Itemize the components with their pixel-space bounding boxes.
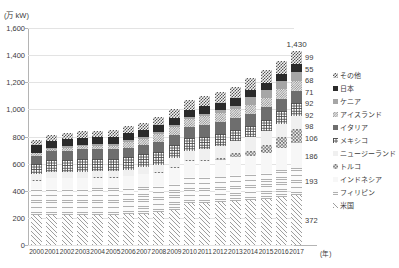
bar-segment (276, 137, 287, 148)
y-axis-tick-label: 800 (0, 132, 25, 141)
bar-segment (138, 214, 149, 245)
bar-2003[interactable] (77, 131, 88, 245)
bar-segment (31, 189, 42, 215)
bar-2002[interactable] (62, 133, 73, 245)
legend-item[interactable]: 日本 (333, 82, 399, 95)
bar-segment (108, 130, 119, 137)
bar-2016[interactable] (276, 61, 287, 246)
gridline (28, 28, 294, 29)
bar-segment (291, 51, 302, 64)
bar-segment (31, 164, 42, 174)
bar-2015[interactable] (261, 70, 272, 245)
x-axis-tick-label: 2011 (198, 248, 212, 255)
segment-value-label: 92 (305, 110, 313, 119)
legend-item-label: 日本 (340, 85, 354, 92)
bar-segment (31, 145, 42, 152)
bar-segment (184, 177, 195, 203)
bar-segment (46, 178, 57, 189)
legend-item[interactable]: ニュージーランド (333, 147, 399, 160)
segment-value-label: 99 (305, 53, 313, 62)
bar-segment (291, 91, 302, 103)
bar-2009[interactable] (169, 109, 180, 245)
bar-segment (138, 174, 149, 187)
bar-segment (291, 143, 302, 168)
bar-segment (62, 160, 73, 171)
bar-segment (291, 81, 302, 91)
bar-segment (153, 212, 164, 245)
bar-segment (123, 148, 134, 158)
bar-2008[interactable] (153, 117, 164, 245)
x-axis-tick-label: 2003 (75, 248, 90, 255)
bar-2010[interactable] (184, 100, 195, 245)
bar-2000[interactable] (31, 140, 42, 245)
legend-item[interactable]: その他 (333, 69, 399, 82)
x-axis-unit-label: (年) (320, 248, 331, 258)
legend-item[interactable]: アイスランド (333, 108, 399, 121)
bar-segment (199, 137, 210, 149)
bar-segment (230, 141, 241, 153)
legend-item[interactable]: 米国 (333, 199, 399, 212)
x-axis-tick-label: 2004 (90, 248, 105, 255)
legend-item[interactable]: フィリピン (333, 186, 399, 199)
bar-segment (138, 145, 149, 155)
bar-segment (215, 146, 226, 157)
bar-segment (46, 189, 57, 215)
bar-segment (230, 201, 241, 245)
bar-2007[interactable] (138, 123, 149, 245)
bar-segment (184, 110, 195, 117)
bar-segment (123, 176, 134, 188)
bar-segment (153, 134, 164, 142)
legend-item[interactable]: メキシコ (333, 134, 399, 147)
bar-segment (276, 81, 287, 90)
bar-segment (199, 203, 210, 245)
gridline (28, 55, 294, 56)
bar-2005[interactable] (108, 130, 119, 245)
bar-segment (153, 165, 164, 173)
segment-value-label: 92 (305, 99, 313, 108)
bar-2001[interactable] (46, 135, 57, 245)
bar-segment (153, 173, 164, 186)
bar-2011[interactable] (199, 96, 210, 245)
plot-area (28, 28, 294, 245)
legend-swatch-icon (333, 177, 338, 182)
bar-2017[interactable] (291, 51, 302, 245)
legend-item[interactable]: トルコ (333, 160, 399, 173)
x-axis-tick-label: 2009 (167, 248, 182, 255)
bar-segment (215, 202, 226, 245)
bar-segment (199, 106, 210, 113)
bar-segment (276, 89, 287, 99)
bar-segment (261, 98, 272, 107)
bar-segment (77, 138, 88, 145)
legend-item-label: イタリア (340, 124, 368, 131)
geothermal-capacity-stacked-bar-chart: (万 kW) 02004006008001,0001,2001,4001,600… (0, 0, 399, 268)
legend-swatch-icon (333, 164, 338, 169)
legend-swatch-icon (333, 73, 338, 78)
legend-item-label: メキシコ (340, 137, 368, 144)
bar-2004[interactable] (92, 131, 103, 245)
bar-2006[interactable] (123, 126, 134, 245)
bar-segment (215, 134, 226, 146)
bar-segment (230, 175, 241, 201)
bar-segment (261, 120, 272, 132)
bar-segment (123, 214, 134, 245)
legend-item[interactable]: インドネシア (333, 173, 399, 186)
legend-swatch-icon (333, 125, 338, 130)
bar-segment (108, 188, 119, 214)
y-axis-tick-label: 600 (0, 159, 25, 168)
bar-segment (199, 96, 210, 106)
bar-2012[interactable] (215, 92, 226, 245)
bar-segment (123, 133, 134, 140)
segment-value-label: 372 (305, 215, 318, 224)
y-axis-tick (25, 82, 28, 83)
bar-2013[interactable] (230, 87, 241, 245)
bar-segment (215, 160, 226, 177)
bar-2014[interactable] (245, 78, 256, 245)
legend-item[interactable]: イタリア (333, 121, 399, 134)
bar-segment (31, 215, 42, 245)
legend-item[interactable]: ケニア (333, 95, 399, 108)
bar-segment (245, 174, 256, 200)
y-axis-tick (25, 245, 28, 246)
bar-segment (276, 148, 287, 170)
x-axis-tick-label: 2000 (29, 248, 44, 255)
legend-item-label: フィリピン (340, 189, 375, 196)
